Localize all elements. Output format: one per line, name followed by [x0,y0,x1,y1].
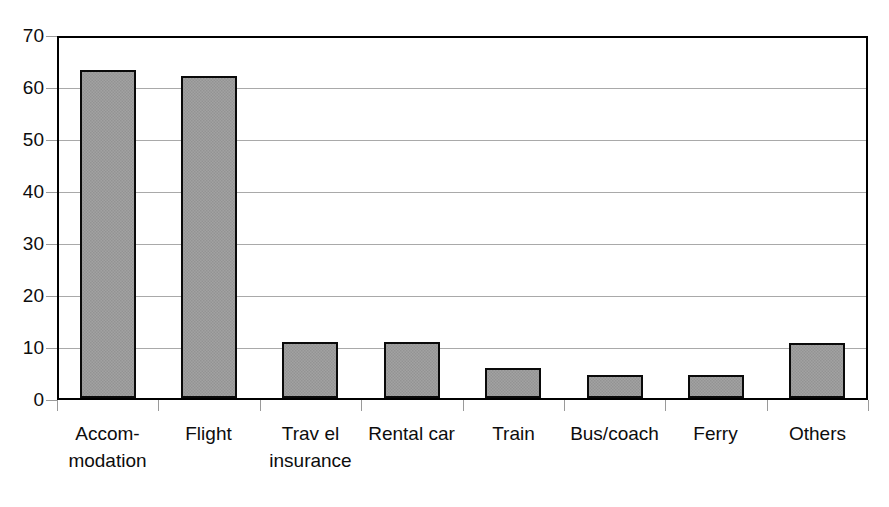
category-label-line-2: modation [57,447,158,474]
plot-area [57,36,868,400]
x-axis-tick-mark [57,400,58,411]
y-axis-tick-label: 50 [4,130,44,149]
bar [80,70,136,398]
bar [789,343,845,398]
x-axis-category-label: Others [767,420,868,447]
bar [587,375,643,398]
bar [688,375,744,398]
x-axis-tick-mark [767,400,768,411]
x-axis-category-label: Ferry [665,420,766,447]
x-axis-category-label: Accom-modation [57,420,158,474]
x-axis-category-label: Flight [158,420,259,447]
x-axis-category-label: Bus/coach [564,420,665,447]
category-label-line-1: Others [789,423,846,444]
bar [384,342,440,398]
x-axis-tick-mark [868,400,869,411]
category-label-line-1: Ferry [693,423,737,444]
y-axis-tick-mark [46,296,57,297]
x-axis-category-label: Train [463,420,564,447]
category-label-line-1: Bus/coach [570,423,659,444]
x-axis-tick-mark [564,400,565,411]
y-axis-tick-mark [46,140,57,141]
y-axis-tick-mark [46,36,57,37]
y-axis-tick-mark [46,244,57,245]
category-label-line-1: Flight [185,423,231,444]
y-axis-tick-mark [46,400,57,401]
x-axis-tick-mark [463,400,464,411]
category-label-line-1: Trav el [282,423,339,444]
y-axis-tick-label: 0 [4,390,44,409]
y-axis-tick-mark [46,192,57,193]
bar-chart-figure: 010203040506070 Accom-modationFlightTrav… [0,0,889,507]
category-label-line-1: Rental car [368,423,455,444]
y-axis-tick-label: 30 [4,234,44,253]
x-axis-tick-mark [260,400,261,411]
category-label-line-2: insurance [260,447,361,474]
bar [282,342,338,398]
y-axis-tick-label: 10 [4,338,44,357]
y-axis-tick-mark [46,348,57,349]
y-axis-tick-label: 20 [4,286,44,305]
x-axis-tick-mark [361,400,362,411]
category-label-line-1: Train [492,423,535,444]
bar [485,368,541,398]
x-axis-category-label: Trav elinsurance [260,420,361,474]
y-axis-tick-mark [46,88,57,89]
y-axis-tick-label: 70 [4,26,44,45]
category-label-line-1: Accom- [75,423,139,444]
x-axis-tick-mark [158,400,159,411]
bar [181,76,237,398]
x-axis-tick-mark [665,400,666,411]
y-axis-tick-label: 60 [4,78,44,97]
x-axis-category-label: Rental car [361,420,462,447]
y-axis-tick-label: 40 [4,182,44,201]
